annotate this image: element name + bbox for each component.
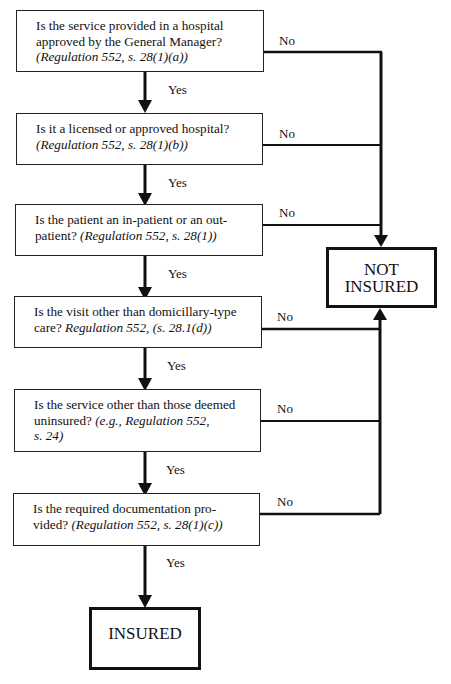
question-box-domicillary-care: Is the visit other than domicillary-type… — [14, 296, 262, 348]
question-text: approved by the General Manager? — [36, 34, 263, 50]
no-label: No — [279, 205, 295, 221]
no-label: No — [279, 126, 295, 142]
regulation-reference: s. 24) — [34, 428, 63, 443]
outcome-text: INSURED — [345, 278, 419, 295]
question-box-patient-type: Is the patient an in-patient or an out- … — [15, 204, 263, 256]
question-box-licensed-hospital: Is it a licensed or approved hospital? (… — [16, 113, 263, 165]
no-label: No — [279, 33, 295, 49]
outcome-text: INSURED — [108, 625, 182, 642]
question-text: Is the service provided in a hospital — [36, 18, 263, 34]
outcome-not-insured: NOT INSURED — [326, 247, 437, 308]
yes-label: Yes — [168, 82, 187, 98]
question-box-documentation: Is the required documentation pro- vided… — [13, 493, 260, 546]
no-label: No — [277, 309, 293, 325]
no-label: No — [277, 494, 293, 510]
yes-label: Yes — [166, 462, 185, 478]
question-text: Is the required documentation pro- — [33, 501, 259, 517]
yes-label: Yes — [166, 555, 185, 571]
question-text: care? — [34, 320, 62, 335]
question-text: Is the patient an in-patient or an out- — [35, 212, 262, 228]
question-text: vided? — [33, 517, 68, 532]
no-label: No — [277, 401, 293, 417]
regulation-reference: (Regulation 552, s. 28(1)(b)) — [36, 137, 188, 152]
question-text: Is the visit other than domicillary-type — [34, 304, 261, 320]
regulation-reference: (Regulation 552, s. 28(1)) — [80, 228, 217, 243]
question-text: Is it a licensed or approved hospital? — [36, 121, 262, 137]
question-text: patient? — [35, 228, 77, 243]
regulation-reference: Regulation 552, (s. 28.1(d)) — [65, 320, 212, 335]
regulation-reference: (Regulation 552, s. 28(1)(c)) — [71, 517, 222, 532]
outcome-insured: INSURED — [89, 607, 201, 670]
yes-label: Yes — [168, 266, 187, 282]
question-text: uninsured? — [34, 413, 92, 428]
yes-label: Yes — [167, 358, 186, 374]
question-text: Is the service other than those deemed — [34, 397, 260, 413]
outcome-text: NOT — [364, 261, 399, 278]
yes-label: Yes — [168, 175, 187, 191]
regulation-reference: (e.g., Regulation 552, — [95, 413, 209, 428]
question-box-uninsured-services: Is the service other than those deemed u… — [14, 389, 261, 452]
question-box-approved-hospital: Is the service provided in a hospital ap… — [16, 10, 264, 72]
regulation-reference: (Regulation 552, s. 28(1)(a)) — [36, 49, 188, 64]
